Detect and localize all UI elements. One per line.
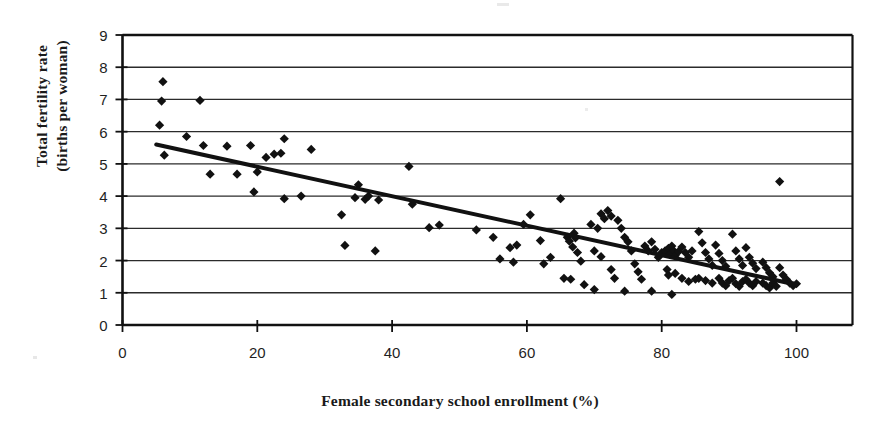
data-point — [425, 223, 434, 232]
data-point — [711, 240, 720, 249]
trendline — [156, 145, 796, 285]
x-tick-label-80: 80 — [653, 344, 670, 361]
x-axis-title: Female secondary school enrollment (%) — [122, 392, 798, 410]
scan-artifact-left — [33, 356, 37, 359]
data-point — [509, 258, 518, 267]
data-point — [566, 275, 575, 284]
data-point — [155, 121, 164, 130]
plot-canvas: 020406080100 0123456789 — [0, 0, 880, 426]
x-tick-label-20: 20 — [249, 344, 266, 361]
x-axis-tick-labels: 020406080100 — [118, 344, 809, 361]
x-tick-label-0: 0 — [118, 344, 126, 361]
data-point — [307, 145, 316, 154]
data-point — [160, 151, 169, 160]
scan-artifact-mid — [585, 108, 588, 111]
y-tick-label-0: 0 — [99, 317, 107, 334]
x-tick-label-40: 40 — [384, 344, 401, 361]
y-tick-label-2: 2 — [99, 253, 107, 270]
data-point — [617, 224, 626, 233]
data-point — [671, 269, 680, 278]
data-point — [222, 142, 231, 151]
data-point — [276, 149, 285, 158]
data-point — [157, 96, 166, 105]
data-point — [741, 243, 750, 252]
y-axis-title-line-2: (births per woman) — [52, 0, 72, 246]
x-tick-label-100: 100 — [784, 344, 809, 361]
data-point — [698, 238, 707, 247]
y-axis-title-line-1: Total fertility rate — [32, 0, 52, 246]
y-axis-tick-labels: 0123456789 — [99, 27, 107, 334]
y-axis-title: Total fertility rate (births per woman) — [32, 0, 72, 246]
data-point — [337, 210, 346, 219]
data-point — [246, 141, 255, 150]
data-point — [610, 274, 619, 283]
data-point — [350, 193, 359, 202]
y-tick-label-1: 1 — [99, 285, 107, 302]
data-point — [182, 132, 191, 141]
y-tick-label-4: 4 — [99, 188, 107, 205]
data-point — [232, 170, 241, 179]
data-point — [280, 134, 289, 143]
data-point — [607, 265, 616, 274]
data-point — [667, 290, 676, 299]
data-point — [590, 246, 599, 255]
data-point — [647, 287, 656, 296]
data-point — [199, 141, 208, 150]
data-point — [731, 246, 740, 255]
y-tick-label-5: 5 — [99, 156, 107, 173]
data-point — [489, 233, 498, 242]
y-tick-label-7: 7 — [99, 91, 107, 108]
y-tick-label-6: 6 — [99, 124, 107, 141]
data-point — [536, 236, 545, 245]
data-point — [728, 230, 737, 239]
data-point — [580, 280, 589, 289]
data-point — [775, 177, 784, 186]
y-tick-label-8: 8 — [99, 59, 107, 76]
data-point — [195, 96, 204, 105]
trendline-segment — [156, 145, 796, 285]
data-point — [526, 210, 535, 219]
data-point — [261, 153, 270, 162]
data-point — [340, 241, 349, 250]
data-point — [620, 287, 629, 296]
y-tick-label-3: 3 — [99, 220, 107, 237]
scan-artifact-top — [497, 3, 509, 6]
data-point — [472, 225, 481, 234]
data-point — [297, 192, 306, 201]
data-point — [158, 77, 167, 86]
data-point — [206, 170, 215, 179]
data-point — [249, 187, 258, 196]
data-point — [576, 257, 585, 266]
x-tick-label-60: 60 — [519, 344, 536, 361]
data-point — [495, 254, 504, 263]
data-point — [371, 246, 380, 255]
scatter-plot-figure: 020406080100 0123456789 Total fertility … — [0, 0, 880, 426]
y-tick-label-9: 9 — [99, 27, 107, 44]
